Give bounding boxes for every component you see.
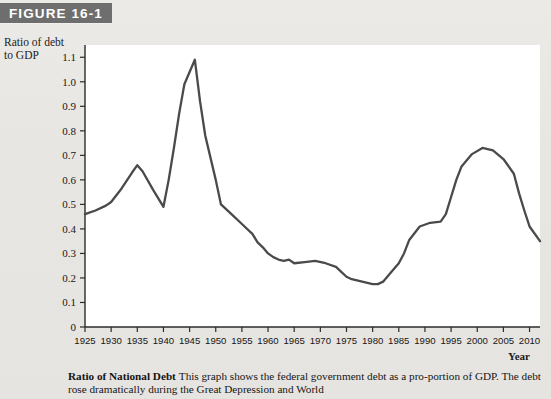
x-tick-label: 1990 xyxy=(414,335,435,346)
x-axis-ticks: 1925193019351940194519501955196019651970… xyxy=(74,327,540,346)
figure-caption: Ratio of National DebtThis graph shows t… xyxy=(68,370,546,397)
x-tick-label: 1960 xyxy=(257,335,278,346)
y-tick-label: 1.1 xyxy=(62,51,76,63)
x-tick-label: 2000 xyxy=(467,335,488,346)
plot-background xyxy=(85,45,540,327)
y-tick-label: 0.1 xyxy=(62,296,76,308)
x-tick-label: 1965 xyxy=(284,335,305,346)
y-tick-label: 0.6 xyxy=(62,174,76,186)
y-tick-label: 0.8 xyxy=(62,125,76,137)
x-tick-label: 1935 xyxy=(127,335,148,346)
x-tick-label: 1980 xyxy=(362,335,383,346)
y-tick-label: 0.7 xyxy=(62,149,76,161)
x-tick-label: 1950 xyxy=(205,335,226,346)
x-tick-label: 1945 xyxy=(179,335,200,346)
y-tick-label: 0.4 xyxy=(62,223,76,235)
x-tick-label: 1940 xyxy=(153,335,174,346)
figure-container: FIGURE 16-1 Ratio of debt to GDP 00.10.2… xyxy=(0,0,551,399)
y-tick-label: 0.3 xyxy=(62,247,76,259)
y-axis-ticks: 00.10.20.30.40.50.60.70.80.91.01.1 xyxy=(62,51,85,333)
x-tick-label: 1930 xyxy=(100,335,121,346)
x-tick-label: 2005 xyxy=(493,335,514,346)
x-tick-label: 1985 xyxy=(388,335,409,346)
x-tick-label: 1925 xyxy=(74,335,95,346)
x-tick-label: 1970 xyxy=(310,335,331,346)
y-tick-label: 0 xyxy=(71,321,77,333)
y-tick-label: 0.5 xyxy=(62,198,76,210)
x-tick-label: 1975 xyxy=(336,335,357,346)
y-tick-label: 0.9 xyxy=(62,100,76,112)
x-axis-title: Year xyxy=(508,350,530,362)
caption-lead: Ratio of National Debt xyxy=(68,370,176,382)
x-tick-label: 2010 xyxy=(519,335,540,346)
line-chart: 00.10.20.30.40.50.60.70.80.91.01.1 19251… xyxy=(0,0,551,370)
y-tick-label: 0.2 xyxy=(62,272,76,284)
x-tick-label: 1955 xyxy=(231,335,252,346)
plot-area: 00.10.20.30.40.50.60.70.80.91.01.1 19251… xyxy=(0,0,551,370)
x-tick-label: 1995 xyxy=(440,335,461,346)
y-tick-label: 1.0 xyxy=(62,76,76,88)
